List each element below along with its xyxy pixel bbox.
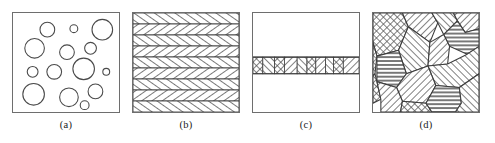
dispersed-particle [27,66,38,77]
lamella-band [133,13,239,24]
panel-a-dispersed-particles [12,12,120,113]
lamella-band [133,68,239,79]
panel-b-layered-structure [132,12,240,113]
interlayer-segment [333,57,343,74]
lamella-group [133,13,239,112]
dispersed-particle [73,58,95,80]
panel-b-frame [132,12,240,113]
panel-c-diagram [253,13,359,112]
dispersed-particle [103,68,110,75]
panel-d-polycrystalline-grains [372,12,480,113]
panel-a-diagram [13,13,119,112]
upper-region [253,13,359,57]
interlayer-segment [307,57,316,74]
lamella-band [133,101,239,112]
grain-group [373,13,479,112]
lamella-band [133,46,239,57]
lower-region [253,74,359,112]
interlayer-segment [326,57,334,74]
panel-b-diagram [133,13,239,112]
lamella-band [133,24,239,35]
interlayer-segment [316,57,326,74]
interlayer-group [253,13,359,112]
dispersed-particle [70,25,78,33]
caption-c: (c) [252,118,360,132]
caption-b: (b) [132,118,240,132]
dispersed-particle [92,19,113,40]
interlayer-segment [275,57,285,74]
lamella-band [133,90,239,101]
lamella-band [133,35,239,46]
microstructure-figure: (a) [0,0,495,143]
dispersed-particle [60,45,75,60]
dispersed-particle [40,22,55,37]
interlayer-segment [343,57,359,74]
dispersed-particle [25,38,45,58]
lamella-band [133,57,239,68]
dispersed-particle [85,42,97,54]
interlayer-segment [284,57,297,74]
interlayer-segment [253,57,263,74]
panel-d-diagram [373,13,479,112]
caption-d: (d) [372,118,480,132]
panel-d-frame [372,12,480,113]
panel-a-frame [12,12,120,113]
panel-c-frame [252,12,360,113]
caption-a: (a) [12,118,120,132]
particle-group [23,19,113,109]
dispersed-particle [60,88,79,107]
dispersed-particle [80,101,89,110]
interlayer-segment [263,57,275,74]
dispersed-particle [23,84,45,106]
dispersed-particle [88,84,103,99]
panel-c-interlayer-film [252,12,360,113]
dispersed-particle [47,64,62,79]
lamella-band [133,79,239,90]
interlayer-segment [297,57,307,74]
